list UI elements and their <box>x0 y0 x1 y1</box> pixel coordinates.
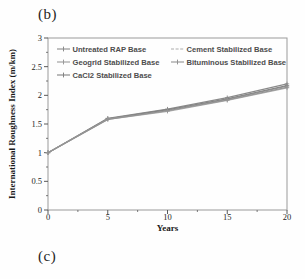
y-tick-label: 2 <box>38 90 42 100</box>
x-axis-title: Years <box>157 223 179 233</box>
x-tick-label: 15 <box>223 212 232 222</box>
legend-item: CaCl2 Stabilized Base <box>57 71 152 80</box>
x-tick-label: 0 <box>46 212 50 222</box>
y-axis: 00.511.522.53International Roughness Ind… <box>7 33 48 215</box>
legend-label: Untreated RAP Base <box>73 45 147 54</box>
data-point-marker <box>46 150 50 154</box>
y-tick-label: 3 <box>38 33 42 43</box>
legend-item: Untreated RAP Base <box>57 45 146 54</box>
legend-item: Cement Stabilized Base <box>171 45 272 54</box>
legend: Untreated RAP BaseGeogrid Stabilized Bas… <box>57 45 286 80</box>
legend-label: CaCl2 Stabilized Base <box>73 71 152 80</box>
legend-item: Geogrid Stabilized Base <box>57 58 159 67</box>
y-tick-label: 0.5 <box>31 176 42 186</box>
y-tick-label: 0 <box>38 205 42 215</box>
y-axis-title: International Roughness Index (m/km) <box>7 49 17 199</box>
panel-label-c: (c) <box>38 248 56 265</box>
series-lines <box>46 82 289 155</box>
x-axis: 05101520Years <box>46 210 291 233</box>
y-tick-label: 1.5 <box>31 119 42 129</box>
legend-label: Geogrid Stabilized Base <box>73 58 160 67</box>
series-line-3 <box>48 88 287 153</box>
series-line-4 <box>48 87 287 152</box>
x-tick-label: 5 <box>106 212 110 222</box>
legend-item: Bituminous Stabilized Base <box>171 58 286 67</box>
iri-vs-years-line-chart: 05101520Years00.511.522.53International … <box>0 0 305 240</box>
y-tick-label: 1 <box>38 148 42 158</box>
figure-panel: (b) 05101520Years00.511.522.53Internatio… <box>0 0 305 279</box>
x-tick-label: 10 <box>163 212 172 222</box>
series-line-1 <box>48 86 287 153</box>
legend-label: Bituminous Stabilized Base <box>187 58 287 67</box>
y-tick-label: 2.5 <box>31 62 42 72</box>
x-tick-label: 20 <box>283 212 292 222</box>
legend-label: Cement Stabilized Base <box>187 45 273 54</box>
